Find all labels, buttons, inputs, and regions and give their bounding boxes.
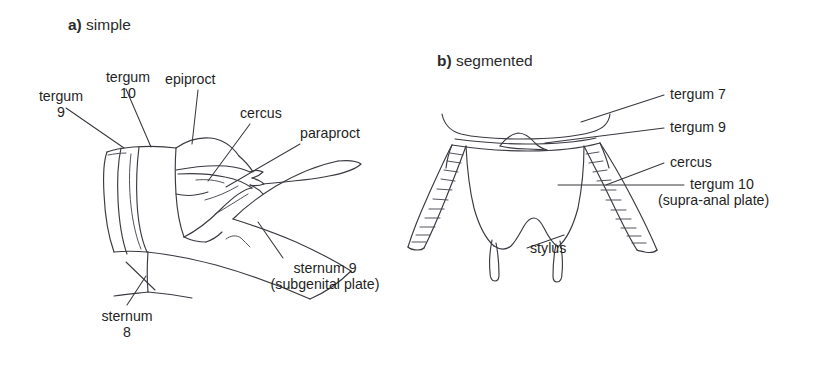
label-sternum-8-line1: sternum	[84, 309, 170, 325]
panel-b-letter: b)	[437, 52, 452, 69]
label-tergum-7: tergum 7	[670, 87, 726, 103]
leader-sternum8-tick	[126, 262, 155, 290]
leader-sternum9	[258, 222, 283, 258]
panel-b-title: b) segmented	[437, 52, 533, 69]
label-tergum-10-a-line1: tergum	[85, 70, 171, 86]
panel-a-letter: a)	[68, 16, 82, 33]
label-sternum-8-line2: 8	[84, 325, 170, 341]
label-tergum-10-b: tergum 10 (supra-anal plate)	[690, 177, 769, 209]
label-sternum-9-line1: sternum 9	[253, 261, 397, 277]
leader-sternum8	[127, 276, 146, 305]
leader-tergum7	[581, 95, 664, 122]
label-tergum-10-a: tergum 10	[85, 70, 171, 102]
figure-root: a) simple tergum 9 tergum 10 epiproct ce…	[0, 0, 827, 379]
label-sternum-8: sternum 8	[84, 309, 170, 341]
leader-tergum9	[545, 128, 664, 143]
label-tergum-9-b: tergum 9	[670, 120, 726, 136]
label-epiproct: epiproct	[165, 72, 215, 88]
label-sternum-9-line2: (subgenital plate)	[253, 277, 397, 293]
label-stylus: stylus	[530, 241, 566, 257]
leader-cercus	[208, 124, 250, 181]
label-sternum-9: sternum 9 (subgenital plate)	[253, 261, 397, 293]
panel-b-leaders	[527, 95, 684, 248]
label-tergum-10-a-line2: 10	[85, 86, 171, 102]
panel-a-title: a) simple	[68, 16, 131, 33]
label-cercus-b: cercus	[670, 155, 712, 171]
leader-epiproct	[192, 90, 198, 144]
label-cercus-a: cercus	[240, 106, 282, 122]
panel-a-title-text: simple	[86, 16, 131, 33]
label-tergum-10-b-line1: tergum 10	[690, 177, 769, 193]
panel-b-title-text: segmented	[456, 52, 533, 69]
label-tergum-10-b-line2: (supra-anal plate)	[658, 193, 769, 209]
leader-paraproct	[226, 144, 300, 187]
label-tergum-9-a-line2: 9	[18, 105, 104, 121]
label-paraproct: paraproct	[300, 126, 360, 142]
